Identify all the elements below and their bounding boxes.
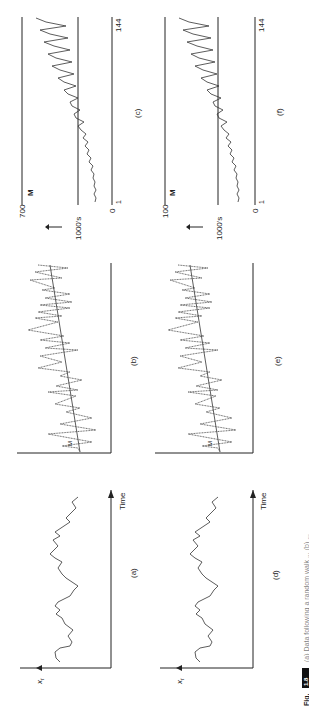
panel-e: M (e) bbox=[155, 263, 282, 453]
figure-caption: Fig. 1.8 (a) Data following a random wal… bbox=[302, 534, 309, 706]
y-unit-label: 1000's bbox=[74, 217, 83, 240]
panel-f: 100 M 1000's 0 1 144 (f) bbox=[161, 17, 284, 240]
figure: 700 M 1000's 0 1 144 (c) 100 M 1000's 0 … bbox=[0, 0, 309, 706]
panel-label: (f) bbox=[275, 108, 284, 116]
panel-label: (b) bbox=[129, 356, 138, 366]
x-end-label: 144 bbox=[257, 18, 266, 32]
time-arrow-icon bbox=[108, 490, 114, 498]
panel-label: (c) bbox=[133, 108, 142, 118]
y-bottom-label: 0 bbox=[108, 208, 117, 213]
panel-label: (d) bbox=[271, 570, 280, 580]
random-walk-series bbox=[190, 497, 218, 662]
time-arrow-icon bbox=[250, 490, 256, 498]
panel-c: 700 M 1000's 0 1 144 (c) bbox=[18, 17, 142, 240]
observed-series bbox=[168, 265, 236, 452]
caption-prefix: Fig. bbox=[303, 694, 309, 706]
panel-label: (e) bbox=[273, 356, 282, 366]
panel-label: (a) bbox=[129, 568, 138, 578]
caption-text: (a) Data following a random walk ... (b)… bbox=[303, 534, 309, 662]
value-axis-label: xt bbox=[35, 678, 45, 685]
up-arrow-icon bbox=[45, 224, 62, 230]
observed-series bbox=[28, 265, 96, 452]
series-marker-m: M bbox=[67, 441, 73, 446]
value-arrow-icon bbox=[176, 665, 182, 671]
series-marker-m: M bbox=[26, 189, 35, 196]
up-arrow-icon bbox=[186, 224, 203, 230]
series-marker-m: M bbox=[168, 189, 177, 196]
time-axis-label: Time bbox=[259, 492, 268, 510]
y-bottom-label: 0 bbox=[251, 208, 260, 213]
value-axis-label: xt bbox=[175, 678, 185, 685]
y-top-label: 100 bbox=[161, 204, 170, 218]
series-marker-m: M bbox=[207, 441, 213, 446]
caption-number: 1.8 bbox=[303, 677, 309, 686]
x-start-label: 1 bbox=[115, 200, 122, 204]
x-start-label: 1 bbox=[258, 200, 265, 204]
seasonal-series bbox=[36, 18, 96, 202]
panel-a: Time xt (a) bbox=[20, 490, 138, 685]
seasonal-series bbox=[179, 18, 239, 202]
y-top-label: 700 bbox=[18, 204, 27, 218]
time-axis-label: Time bbox=[118, 492, 127, 510]
x-end-label: 144 bbox=[114, 18, 123, 32]
panel-b: M (b) bbox=[17, 263, 138, 453]
y-unit-label: 1000's bbox=[215, 217, 224, 240]
random-walk-series bbox=[50, 497, 78, 662]
value-arrow-icon bbox=[36, 665, 42, 671]
panel-d: Time xt (d) bbox=[160, 490, 280, 685]
